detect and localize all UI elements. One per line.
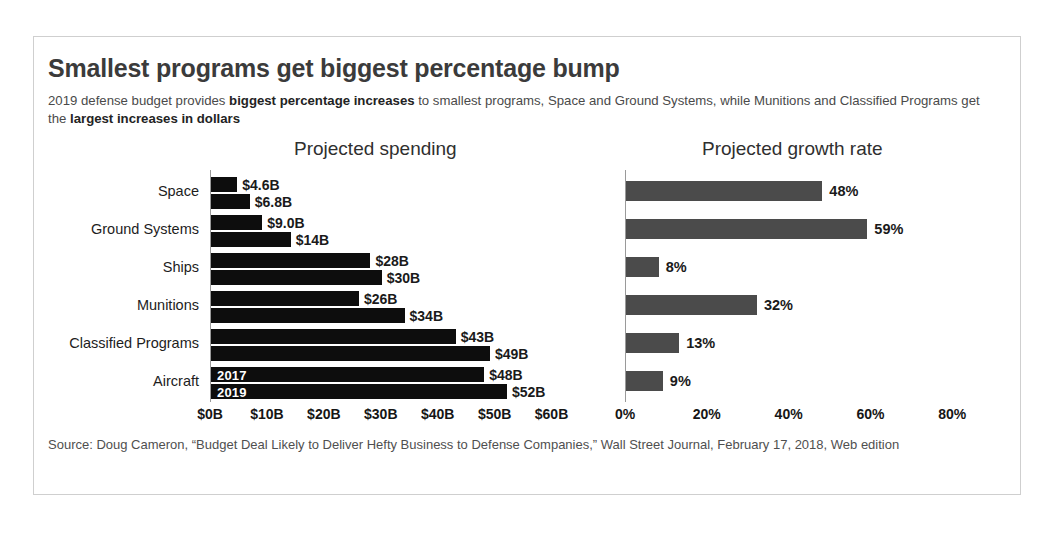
bar-value-label: $14B (296, 232, 329, 248)
bar-value-label: 48% (829, 183, 858, 199)
x-tick-label: 20% (693, 406, 721, 422)
table-row: 59% (625, 214, 985, 252)
bar-value-label: $43B (461, 329, 494, 345)
x-axis-growth: 0%20%40%60%80% (625, 406, 985, 428)
bar-2017-ground-systems: $9.0B (211, 215, 262, 230)
table-row: 9% (625, 366, 985, 404)
table-row: Space$4.6B$6.8B (210, 176, 580, 214)
figure-frame: Smallest programs get biggest percentage… (33, 36, 1021, 495)
table-row: Classified Programs$43B$49B (210, 328, 580, 366)
x-tick-label: $60B (535, 406, 568, 422)
scan-artifact-top (0, 0, 1054, 8)
x-tick-label: 40% (775, 406, 803, 422)
bar-value-label: $26B (364, 291, 397, 307)
bar-2019-ships: $30B (211, 270, 382, 285)
bar-value-label: 32% (764, 297, 793, 313)
figure-subtitle: 2019 defense budget provides biggest per… (48, 92, 998, 128)
bar-growth-ground-systems: 59% (626, 219, 867, 239)
bar-value-label: $28B (375, 253, 408, 269)
bar-value-label: $34B (410, 308, 443, 324)
category-label-classified-programs: Classified Programs (0, 335, 199, 351)
category-label-ships: Ships (0, 259, 199, 275)
bar-growth-munitions: 32% (626, 295, 757, 315)
x-tick-label: $10B (250, 406, 283, 422)
bar-2019-classified-programs: $49B (211, 346, 490, 361)
x-tick-label: 60% (856, 406, 884, 422)
bar-value-label: $48B (489, 367, 522, 383)
bar-growth-aircraft: 9% (626, 371, 663, 391)
bar-2019-space: $6.8B (211, 194, 250, 209)
bar-2017-space: $4.6B (211, 177, 237, 192)
x-axis-spending: $0B$10B$20B$30B$40B$50B$60B (210, 406, 580, 428)
bar-2019-ground-systems: $14B (211, 232, 291, 247)
bar-2017-classified-programs: $43B (211, 329, 456, 344)
bar-2017-ships: $28B (211, 253, 370, 268)
table-row: Munitions$26B$34B (210, 290, 580, 328)
bar-value-label: $30B (387, 270, 420, 286)
bar-value-label: $49B (495, 346, 528, 362)
series-tag-2017: 2017 (217, 367, 247, 382)
panel-heading-projected-growth-rate: Projected growth rate (702, 138, 883, 160)
x-tick-label: 80% (938, 406, 966, 422)
category-label-munitions: Munitions (0, 297, 199, 313)
table-row: Ground Systems$9.0B$14B (210, 214, 580, 252)
subtitle-emphasis-1: biggest percentage increases (229, 93, 414, 108)
bar-2019-munitions: $34B (211, 308, 405, 323)
subtitle-emphasis-2: largest increases in dollars (70, 111, 240, 126)
bar-value-label: 59% (874, 221, 903, 237)
chart-projected-spending: Space$4.6B$6.8BGround Systems$9.0B$14BSh… (210, 170, 580, 405)
bar-value-label: $4.6B (242, 177, 279, 193)
series-tag-2019: 2019 (217, 384, 247, 399)
bar-growth-space: 48% (626, 181, 822, 201)
table-row: 32% (625, 290, 985, 328)
figure-title: Smallest programs get biggest percentage… (48, 54, 620, 83)
bar-growth-ships: 8% (626, 257, 659, 277)
table-row: Ships$28B$30B (210, 252, 580, 290)
category-label-aircraft: Aircraft (0, 373, 199, 389)
bar-2017-aircraft: $48B2017 (211, 367, 484, 382)
table-row: 13% (625, 328, 985, 366)
category-label-ground-systems: Ground Systems (0, 221, 199, 237)
bar-2017-munitions: $26B (211, 291, 359, 306)
bar-value-label: 9% (670, 373, 691, 389)
subtitle-text-1: 2019 defense budget provides (48, 93, 229, 108)
table-row: 8% (625, 252, 985, 290)
panel-heading-projected-spending: Projected spending (294, 138, 457, 160)
table-row: Aircraft$48B2017$52B2019 (210, 366, 580, 404)
bar-value-label: 13% (686, 335, 715, 351)
bar-value-label: $6.8B (255, 194, 292, 210)
x-tick-label: $0B (197, 406, 223, 422)
x-tick-label: $50B (478, 406, 511, 422)
bar-value-label: $9.0B (267, 215, 304, 231)
figure-source-note: Source: Doug Cameron, “Budget Deal Likel… (48, 435, 998, 454)
bar-growth-classified-programs: 13% (626, 333, 679, 353)
bar-value-label: $52B (512, 384, 545, 400)
bar-value-label: 8% (666, 259, 687, 275)
chart-projected-growth-rate: 48%59%8%32%13%9% 0%20%40%60%80% (625, 170, 985, 405)
bar-2019-aircraft: $52B2019 (211, 384, 507, 399)
x-tick-label: $30B (364, 406, 397, 422)
table-row: 48% (625, 176, 985, 214)
category-label-space: Space (0, 183, 199, 199)
x-tick-label: 0% (615, 406, 635, 422)
x-tick-label: $40B (421, 406, 454, 422)
x-tick-label: $20B (307, 406, 340, 422)
